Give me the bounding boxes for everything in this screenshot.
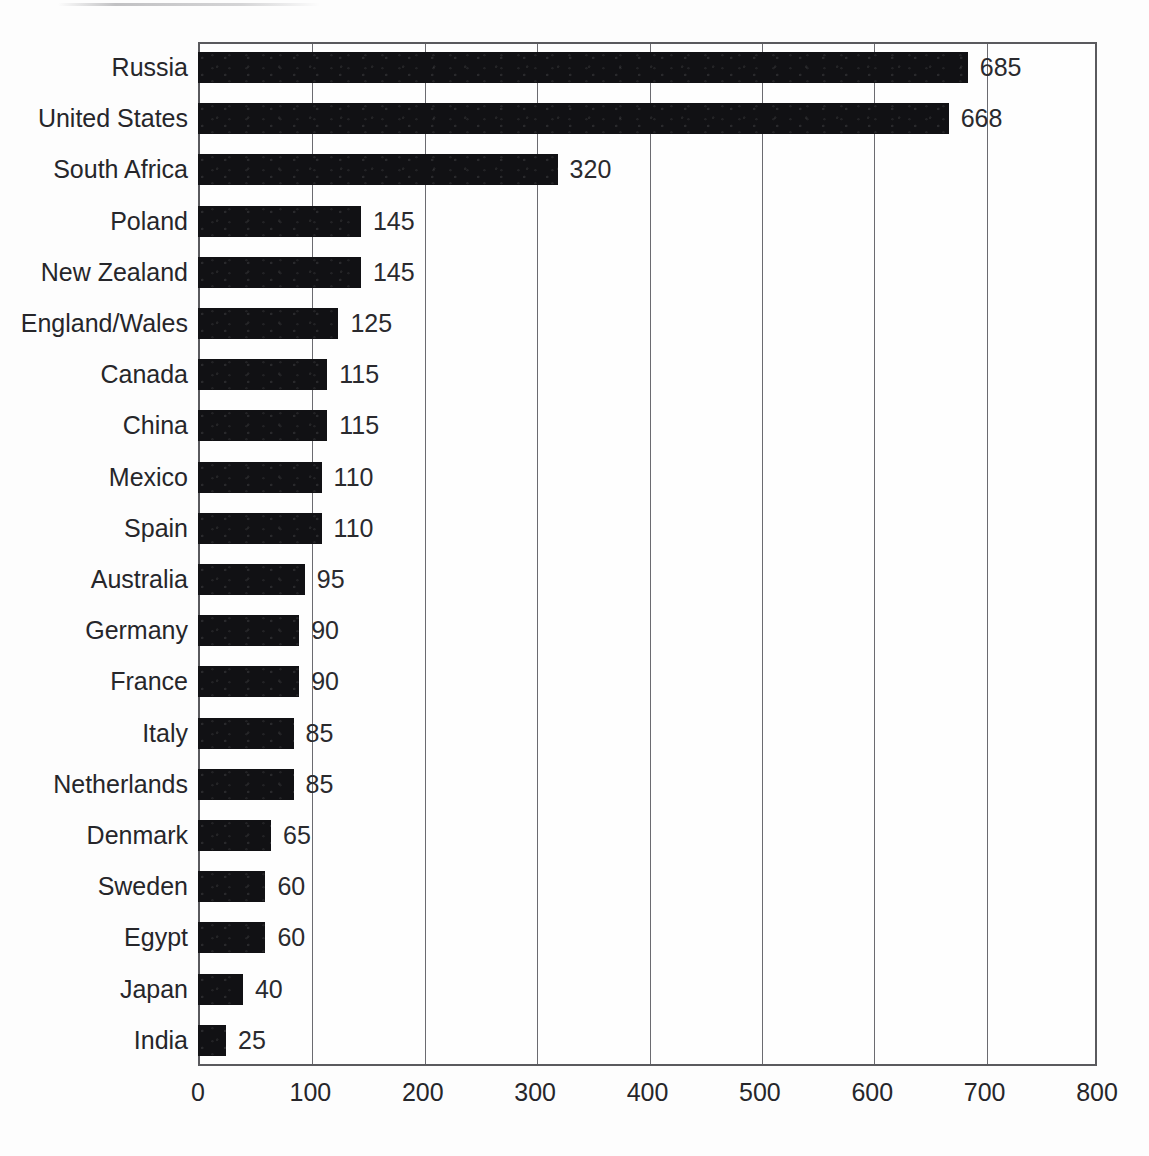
bar-row: 115	[198, 400, 1097, 451]
bar-row: 60	[198, 912, 1097, 963]
category-label: New Zealand	[0, 247, 188, 298]
bar-value-label: 95	[305, 564, 345, 595]
x-tick-label: 100	[290, 1078, 332, 1107]
bar	[198, 1025, 226, 1056]
bar-value-label: 125	[338, 308, 392, 339]
bar	[198, 52, 968, 83]
bar	[198, 513, 322, 544]
bar-row: 95	[198, 554, 1097, 605]
bar-row: 320	[198, 144, 1097, 195]
bar-value-label: 320	[558, 154, 612, 185]
bar	[198, 820, 271, 851]
bar	[198, 615, 299, 646]
bar	[198, 718, 294, 749]
x-axis-tick-labels: 0100200300400500600700800	[0, 1078, 1149, 1118]
bar-value-label: 85	[294, 769, 334, 800]
bar-row: 85	[198, 759, 1097, 810]
bar	[198, 974, 243, 1005]
bar-value-label: 90	[299, 615, 339, 646]
x-tick-label: 200	[402, 1078, 444, 1107]
bar-value-label: 115	[327, 359, 379, 390]
category-label: Russia	[0, 42, 188, 93]
category-label: Spain	[0, 503, 188, 554]
bar-row: 85	[198, 708, 1097, 759]
bar	[198, 103, 949, 134]
bar	[198, 154, 558, 185]
bar-value-label: 60	[265, 922, 305, 953]
x-tick-label: 600	[851, 1078, 893, 1107]
category-label: Mexico	[0, 452, 188, 503]
bar-value-label: 65	[271, 820, 311, 851]
x-tick-label: 800	[1076, 1078, 1118, 1107]
bar-row: 668	[198, 93, 1097, 144]
bar-row: 110	[198, 452, 1097, 503]
category-label: Poland	[0, 196, 188, 247]
bar	[198, 769, 294, 800]
x-tick-label: 300	[514, 1078, 556, 1107]
category-label: Italy	[0, 708, 188, 759]
category-label: Sweden	[0, 861, 188, 912]
category-label: France	[0, 656, 188, 707]
category-label: England/Wales	[0, 298, 188, 349]
bar-row: 25	[198, 1015, 1097, 1066]
horizontal-bar-chart: RussiaUnited StatesSouth AfricaPolandNew…	[0, 0, 1149, 1156]
x-tick-label: 700	[964, 1078, 1006, 1107]
category-label: South Africa	[0, 144, 188, 195]
bar-value-label: 115	[327, 410, 379, 441]
bar-value-label: 685	[968, 52, 1022, 83]
x-tick-label: 0	[191, 1078, 205, 1107]
bar-row: 65	[198, 810, 1097, 861]
category-label: India	[0, 1015, 188, 1066]
bar	[198, 564, 305, 595]
category-label: Netherlands	[0, 759, 188, 810]
bar-row: 110	[198, 503, 1097, 554]
x-tick-label: 400	[627, 1078, 669, 1107]
bar	[198, 410, 327, 441]
category-label: Japan	[0, 964, 188, 1015]
bar-row: 60	[198, 861, 1097, 912]
bar-value-label: 668	[949, 103, 1003, 134]
category-label: Denmark	[0, 810, 188, 861]
bar-value-label: 25	[226, 1025, 266, 1056]
bar-value-label: 145	[361, 206, 415, 237]
bar	[198, 257, 361, 288]
bar-row: 685	[198, 42, 1097, 93]
bar	[198, 462, 322, 493]
bar-value-label: 110	[322, 462, 374, 493]
bar	[198, 871, 265, 902]
bar-value-label: 60	[265, 871, 305, 902]
bar	[198, 206, 361, 237]
category-label: Canada	[0, 349, 188, 400]
bars-layer: 6856683201451451251151151101109590908585…	[198, 42, 1097, 1066]
category-label: China	[0, 400, 188, 451]
category-axis-labels: RussiaUnited StatesSouth AfricaPolandNew…	[0, 42, 188, 1066]
category-label: United States	[0, 93, 188, 144]
category-label: Australia	[0, 554, 188, 605]
bar-value-label: 85	[294, 718, 334, 749]
bar	[198, 308, 338, 339]
bar-value-label: 110	[322, 513, 374, 544]
bar	[198, 666, 299, 697]
bar	[198, 359, 327, 390]
category-label: Germany	[0, 605, 188, 656]
x-tick-label: 500	[739, 1078, 781, 1107]
bar-row: 90	[198, 605, 1097, 656]
bar-value-label: 40	[243, 974, 283, 1005]
bar-row: 40	[198, 964, 1097, 1015]
bar-value-label: 90	[299, 666, 339, 697]
bar-row: 90	[198, 656, 1097, 707]
bar-row: 115	[198, 349, 1097, 400]
category-label: Egypt	[0, 912, 188, 963]
bar-row: 145	[198, 247, 1097, 298]
bar	[198, 922, 265, 953]
bar-row: 125	[198, 298, 1097, 349]
bar-row: 145	[198, 196, 1097, 247]
bar-value-label: 145	[361, 257, 415, 288]
